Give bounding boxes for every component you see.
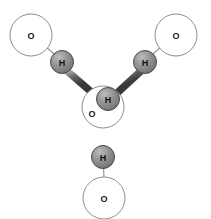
atom-h-bottom: H [92,146,115,169]
hydrogen-sphere [134,51,157,74]
atom-o-top-left: O [10,14,52,56]
atom-h-right: H [134,51,157,74]
atom-h-left: H [51,51,74,74]
hydrogen-sphere [97,88,120,111]
atom-o-bottom: O [83,177,125,219]
molecular-diagram-canvas: O O O O H H H H [0,0,211,219]
atom-o-top-right: O [155,14,197,56]
hydrogen-sphere [92,146,115,169]
molecule-svg: O O O O H H H H [0,0,211,219]
atom-h-center: H [97,88,120,111]
oxygen-sphere [155,14,197,56]
oxygen-sphere [10,14,52,56]
hydrogen-sphere [51,51,74,74]
oxygen-sphere [83,177,125,219]
